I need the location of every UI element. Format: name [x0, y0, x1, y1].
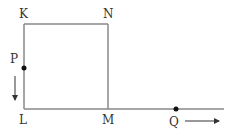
- label-q: Q: [169, 115, 179, 129]
- label-n: N: [103, 7, 114, 21]
- label-m: M: [102, 113, 114, 127]
- square-knml: [24, 24, 108, 109]
- label-l: L: [19, 113, 27, 127]
- point-p: [22, 66, 27, 71]
- label-p: P: [10, 52, 18, 66]
- label-k: K: [19, 7, 29, 21]
- geometry-diagram: K N P L M Q: [0, 0, 235, 136]
- point-q: [174, 107, 179, 112]
